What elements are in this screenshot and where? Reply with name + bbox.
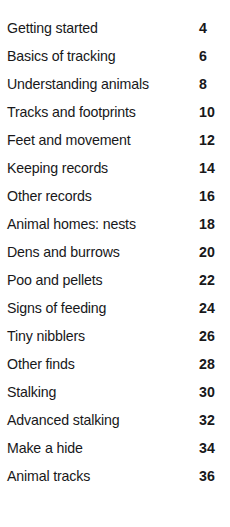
toc-entry-title: Stalking (7, 378, 56, 406)
toc-entry-page-number: 28 (199, 350, 215, 378)
toc-entry[interactable]: Other finds28 (0, 350, 230, 378)
toc-entry[interactable]: Basics of tracking6 (0, 42, 230, 70)
toc-entry-page-number: 10 (199, 98, 215, 126)
toc-entry-page-number: 16 (199, 182, 215, 210)
toc-entry-page-number: 20 (199, 238, 215, 266)
toc-entry[interactable]: Animal homes: nests18 (0, 210, 230, 238)
toc-entry-title: Dens and burrows (7, 238, 120, 266)
toc-entry-page-number: 18 (199, 210, 215, 238)
toc-entry[interactable]: Advanced stalking32 (0, 406, 230, 434)
toc-entry-page-number: 14 (199, 154, 215, 182)
toc-entry-title: Basics of tracking (7, 42, 115, 70)
toc-entry-page-number: 30 (199, 378, 215, 406)
toc-entry[interactable]: Getting started4 (0, 14, 230, 42)
toc-entry[interactable]: Animal tracks36 (0, 462, 230, 490)
toc-entry-title: Animal homes: nests (7, 210, 136, 238)
toc-entry-title: Make a hide (7, 434, 83, 462)
page-title: Contents (7, 0, 223, 4)
toc-entry[interactable]: Signs of feeding24 (0, 294, 230, 322)
toc-entry-page-number: 26 (199, 322, 215, 350)
contents-page: Contents Getting started4Basics of track… (0, 0, 230, 527)
toc-entry-title: Other finds (7, 350, 75, 378)
toc-entry[interactable]: Tiny nibblers26 (0, 322, 230, 350)
toc-entry-page-number: 8 (199, 70, 207, 98)
toc-entry[interactable]: Keeping records14 (0, 154, 230, 182)
toc-entry-title: Animal tracks (7, 462, 90, 490)
toc-entry-title: Understanding animals (7, 70, 149, 98)
toc-entry-page-number: 12 (199, 126, 215, 154)
toc-entry-page-number: 24 (199, 294, 215, 322)
toc-entry-title: Poo and pellets (7, 266, 103, 294)
toc-entry-title: Tracks and footprints (7, 98, 136, 126)
toc-entry-title: Signs of feeding (7, 294, 106, 322)
toc-entry-title: Keeping records (7, 154, 108, 182)
toc-entry[interactable]: Feet and movement12 (0, 126, 230, 154)
toc-entry[interactable]: Other records16 (0, 182, 230, 210)
toc-entry-page-number: 4 (199, 14, 207, 42)
toc-entry-title: Advanced stalking (7, 406, 120, 434)
toc-entry-title: Feet and movement (7, 126, 131, 154)
toc-entry[interactable]: Poo and pellets22 (0, 266, 230, 294)
toc-entry[interactable]: Make a hide34 (0, 434, 230, 462)
toc-entry-page-number: 36 (199, 462, 215, 490)
toc-entry-page-number: 34 (199, 434, 215, 462)
toc-entry-title: Tiny nibblers (7, 322, 85, 350)
toc-entry-page-number: 6 (199, 42, 207, 70)
toc-entry[interactable]: Stalking30 (0, 378, 230, 406)
toc-entry-title: Getting started (7, 14, 98, 42)
toc-entry[interactable]: Understanding animals8 (0, 70, 230, 98)
toc-entry[interactable]: Tracks and footprints10 (0, 98, 230, 126)
table-of-contents-list: Getting started4Basics of tracking6Under… (0, 14, 230, 490)
toc-entry-title: Other records (7, 182, 92, 210)
toc-entry-page-number: 32 (199, 406, 215, 434)
toc-entry[interactable]: Dens and burrows20 (0, 238, 230, 266)
toc-entry-page-number: 22 (199, 266, 215, 294)
